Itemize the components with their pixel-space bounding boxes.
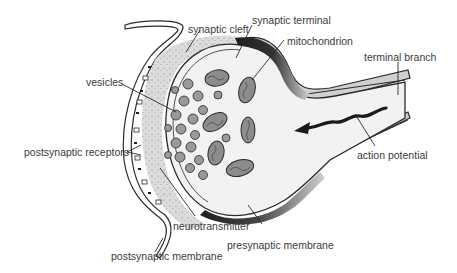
label-action-potential: action potential (357, 149, 428, 161)
label-postsynaptic-receptors: postsynaptic receptors (24, 146, 129, 158)
synapse-diagram: synaptic cleft synaptic terminal mitocho… (0, 0, 457, 273)
label-neurotransmitter: neurotransmitter (173, 220, 250, 232)
label-mitochondrion: mitochondrion (287, 35, 353, 47)
label-postsynaptic-membrane: postsynaptic membrane (111, 250, 223, 262)
synaptic-terminal (166, 37, 405, 224)
label-synaptic-cleft: synaptic cleft (188, 23, 249, 35)
label-vesicles: vesicles (86, 76, 123, 88)
label-presynaptic-membrane: presynaptic membrane (227, 239, 334, 251)
label-terminal-branch: terminal branch (364, 51, 437, 63)
label-synaptic-terminal: synaptic terminal (252, 14, 331, 26)
